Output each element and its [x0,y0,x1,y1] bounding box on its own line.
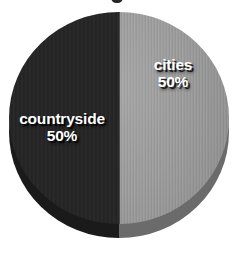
pie-slice-countryside[interactable] [9,12,119,224]
pie-chart [9,12,229,238]
pie-slice-cities[interactable] [119,12,229,224]
cropped-title-remnant [111,0,123,3]
pie-chart-figure: countryside 50% cities 50% [0,0,238,255]
pie-slice-divider [119,12,120,224]
